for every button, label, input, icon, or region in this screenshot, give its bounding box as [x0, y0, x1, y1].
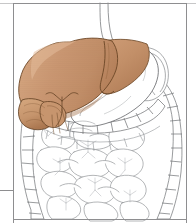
- abdominal-viscera-illustration: [0, 0, 196, 223]
- margin-bottom-right: [187, 220, 196, 223]
- anatomical-figure: Abdominal viscera: liver, stomach and in…: [0, 0, 196, 223]
- margin-top-left: [0, 0, 13, 4]
- margin-top-right: [187, 0, 196, 4]
- margin-bottom-left: [0, 220, 13, 223]
